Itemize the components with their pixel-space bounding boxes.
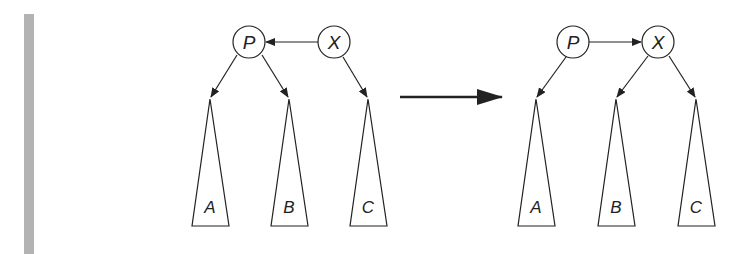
subtree-a: A (192, 99, 229, 226)
edge-p-to-a (211, 55, 237, 97)
node-x: X (642, 26, 674, 58)
svg-text:B: B (283, 198, 294, 217)
svg-text:A: A (203, 198, 215, 217)
edge-p-to-b (262, 55, 288, 97)
rotation-diagram: P X A B C P X (0, 0, 752, 254)
node-p: P (233, 26, 265, 58)
svg-text:X: X (327, 32, 342, 53)
svg-text:C: C (362, 198, 375, 217)
subtree-c: C (350, 99, 387, 226)
before-tree: P X A B C (192, 26, 387, 226)
svg-text:A: A (529, 198, 541, 217)
svg-text:P: P (243, 32, 256, 53)
svg-text:B: B (610, 198, 621, 217)
subtree-a: A (518, 99, 555, 226)
node-x: X (318, 26, 350, 58)
svg-text:P: P (567, 32, 580, 53)
subtree-b: B (598, 99, 635, 226)
subtree-c: C (678, 99, 715, 226)
node-p: P (557, 26, 589, 58)
edge-x-to-c (669, 56, 695, 97)
edge-x-to-b (617, 56, 648, 97)
edge-p-to-a (537, 57, 566, 97)
svg-text:X: X (651, 32, 666, 53)
edge-x-to-c (343, 57, 367, 97)
svg-text:C: C (690, 198, 703, 217)
after-tree: P X A B C (518, 26, 715, 226)
subtree-b: B (271, 99, 308, 226)
